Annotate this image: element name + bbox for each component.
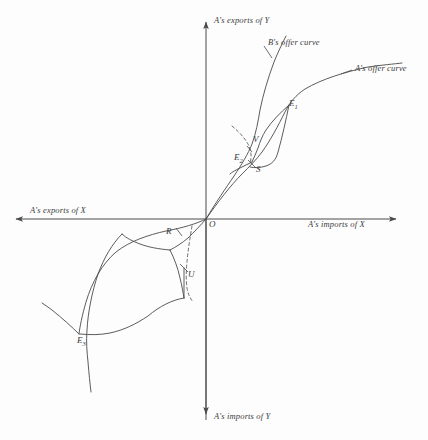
curve-a-offer-lower	[170, 219, 206, 250]
curve-label-a-offer: A's offer curve	[355, 64, 407, 73]
curve-b-offer-lower	[79, 219, 206, 334]
point-label-e1: E1	[289, 99, 298, 110]
point-label-v: V	[253, 135, 259, 144]
tick-near-r	[176, 228, 182, 236]
axis-label-bottom: A's imports of Y	[214, 412, 270, 421]
point-label-s: S	[256, 165, 261, 174]
curve-b-offer-upper	[206, 36, 286, 219]
curve-a-loop-lower-bottom	[80, 298, 184, 335]
point-label-r: R	[166, 227, 172, 236]
axis-label-top: A's exports of Y	[214, 16, 269, 25]
curve-b-offer-lower-tail	[42, 303, 79, 334]
axis-label-left: A's exports of X	[30, 206, 86, 215]
curve-label-b-offer: B's offer curve	[268, 38, 320, 47]
point-label-e1-sub: 1	[295, 103, 298, 110]
curve-a-loop-lower-left	[87, 234, 122, 392]
point-label-e3-sub: 3	[83, 340, 86, 347]
point-label-e2: E2	[234, 153, 243, 164]
curve-a-loop-lower-inner	[170, 250, 184, 298]
axis-label-right: A's imports of X	[308, 220, 365, 229]
point-label-e2-sub: 2	[240, 157, 243, 164]
leader-a-offer-curve	[341, 70, 352, 74]
offer-curve-figure: A's exports of Y A's imports of Y A's ex…	[0, 0, 428, 440]
leader-b-offer-curve	[264, 46, 272, 58]
curve-a-offer-upper	[206, 63, 402, 219]
point-label-u: U	[188, 270, 195, 279]
dashed-branch-lower	[186, 226, 193, 302]
point-label-e3: E3	[77, 336, 86, 347]
origin-label: O	[209, 220, 216, 229]
